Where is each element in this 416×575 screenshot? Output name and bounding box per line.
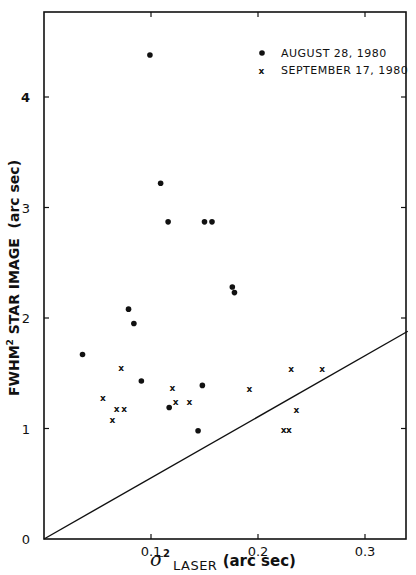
data-point-x-icon: x (288, 364, 294, 374)
data-point-dot-icon (202, 219, 208, 225)
legend: AUGUST 28, 1980 x SEPTEMBER 17, 1980 (259, 47, 409, 77)
x-tick-label: 0.3 (355, 544, 376, 559)
y-tick-label: 3 (22, 201, 30, 216)
data-point-x-icon: x (169, 383, 175, 393)
data-point-dot-icon (165, 219, 171, 225)
x-axis-title-unit: (arc sec) (223, 552, 296, 570)
data-point-x-icon: x (173, 397, 179, 407)
x-axis-title-sup: 2 (163, 548, 170, 559)
x-axis-title-sub: LASER (173, 558, 217, 573)
data-point-x-icon: x (100, 393, 106, 403)
data-point-dot-icon (131, 321, 137, 327)
legend-label-september: SEPTEMBER 17, 1980 (281, 64, 408, 77)
data-point-x-icon: x (247, 384, 253, 394)
legend-marker-x-icon: x (259, 66, 265, 76)
y-tick-label: 2 (22, 311, 30, 326)
data-point-x-icon: x (118, 363, 124, 373)
data-point-dot-icon (230, 284, 236, 290)
data-point-dot-icon (147, 52, 153, 58)
plot-frame (44, 12, 406, 539)
y-tick-label: 0 (22, 532, 30, 547)
data-point-x-icon: x (187, 397, 193, 407)
data-point-x-icon: x (286, 425, 292, 435)
axis-tick-labels: 0.10.20.301234 (21, 90, 375, 559)
data-point-dot-icon (139, 378, 145, 384)
data-point-x-icon: x (319, 364, 325, 374)
legend-marker-dot-icon (259, 50, 265, 56)
y-axis-title: FWHM2 STAR IMAGE (arc sec) (5, 160, 22, 396)
data-point-dot-icon (195, 428, 201, 434)
data-point-x-icon: x (294, 405, 300, 415)
data-point-dot-icon (209, 219, 215, 225)
data-point-x-icon: x (110, 415, 116, 425)
data-point-x-icon: x (121, 404, 127, 414)
data-point-x-icon: x (114, 404, 120, 414)
x-axis-title: σ2LASER (arc sec) (150, 548, 296, 573)
y-tick-label: 4 (21, 90, 30, 105)
data-point-dot-icon (166, 405, 172, 411)
axis-ticks (44, 12, 406, 539)
y-tick-label: 1 (22, 422, 30, 437)
scatter-chart: 0.10.20.301234 xxxxxxxxxxxxxx AUGUST 28,… (0, 0, 416, 575)
data-point-dot-icon (126, 306, 132, 312)
legend-label-august: AUGUST 28, 1980 (281, 47, 387, 60)
data-point-dot-icon (80, 352, 86, 358)
data-point-dot-icon (158, 180, 164, 186)
data-point-dot-icon (232, 290, 238, 296)
data-points: xxxxxxxxxxxxxx (80, 52, 326, 434)
x-axis-title-symbol: σ (150, 548, 163, 570)
data-point-dot-icon (200, 383, 206, 389)
reference-line (44, 331, 408, 539)
